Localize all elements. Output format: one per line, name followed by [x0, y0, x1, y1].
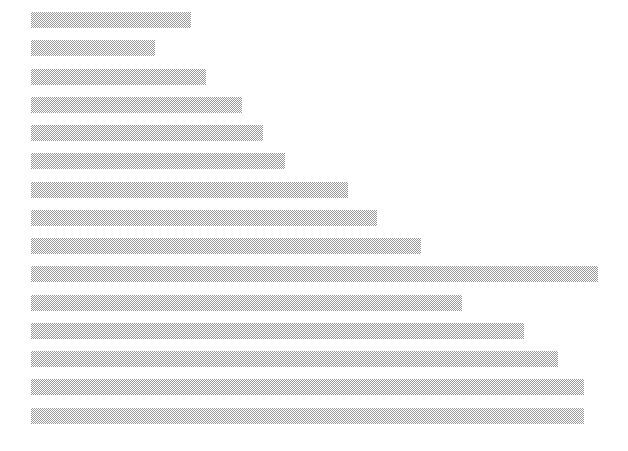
bar-12[interactable] — [31, 323, 524, 339]
bar-3[interactable] — [31, 69, 206, 85]
bar-2[interactable] — [31, 40, 155, 56]
bar-6[interactable] — [31, 153, 285, 169]
bar-10[interactable] — [31, 266, 598, 282]
bar-13[interactable] — [31, 351, 558, 367]
bar-chart — [0, 0, 628, 451]
bar-15[interactable] — [31, 408, 584, 424]
bar-7[interactable] — [31, 182, 348, 198]
bar-4[interactable] — [31, 97, 242, 113]
bar-8[interactable] — [31, 210, 377, 226]
bar-9[interactable] — [31, 238, 421, 254]
bar-11[interactable] — [31, 295, 462, 311]
bar-14[interactable] — [31, 379, 584, 395]
bar-1[interactable] — [31, 12, 191, 28]
plot-area — [0, 0, 628, 451]
bar-5[interactable] — [31, 125, 263, 141]
